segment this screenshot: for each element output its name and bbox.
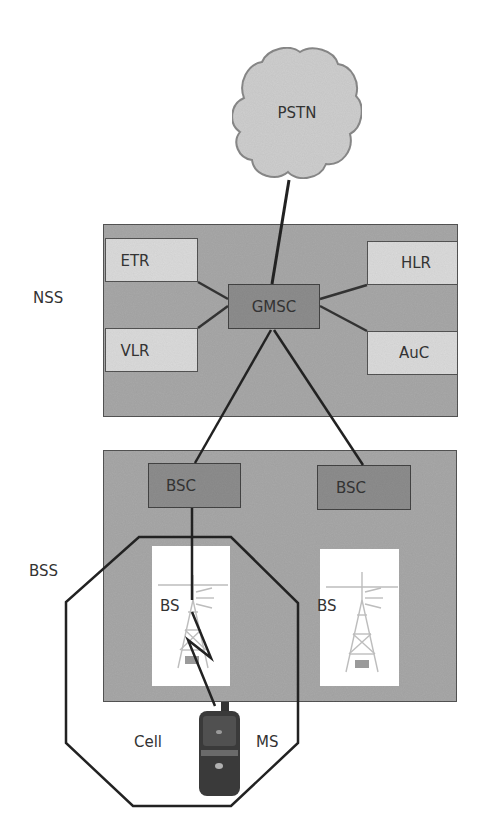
bss-subsystem: BSC BSC BS: [103, 450, 457, 702]
etr-label: ETR: [120, 252, 149, 270]
etr-register: ETR: [105, 238, 198, 282]
ms-label: MS: [256, 733, 278, 751]
bs-right-label: BS: [317, 597, 337, 615]
cell-label: Cell: [134, 733, 162, 751]
bs-right: BS: [317, 549, 399, 686]
pstn-cloud: PSTN: [232, 48, 362, 178]
vlr-label: VLR: [120, 342, 149, 360]
bsc-left-label: BSC: [166, 477, 196, 495]
nss-label: NSS: [33, 289, 63, 307]
gmsc-label: GMSC: [252, 298, 297, 316]
gsm-architecture-diagram: PSTN ETR VLR HLR AuC: [0, 0, 488, 837]
bsc-right-node: BSC: [317, 465, 411, 510]
nss-subsystem: ETR VLR HLR AuC GMSC: [103, 224, 458, 417]
auc-register: AuC: [367, 331, 458, 375]
auc-label: AuC: [399, 344, 429, 362]
vlr-register: VLR: [105, 328, 198, 372]
hlr-label: HLR: [401, 254, 431, 272]
pstn-label: PSTN: [278, 104, 317, 122]
bss-label: BSS: [29, 562, 58, 580]
mobile-phone-icon: [199, 702, 240, 796]
gmsc-node: GMSC: [228, 284, 320, 329]
bsc-left-node: BSC: [148, 463, 241, 508]
bsc-right-label: BSC: [336, 479, 366, 497]
hlr-register: HLR: [367, 241, 458, 285]
bs-left-label: BS: [160, 597, 180, 615]
